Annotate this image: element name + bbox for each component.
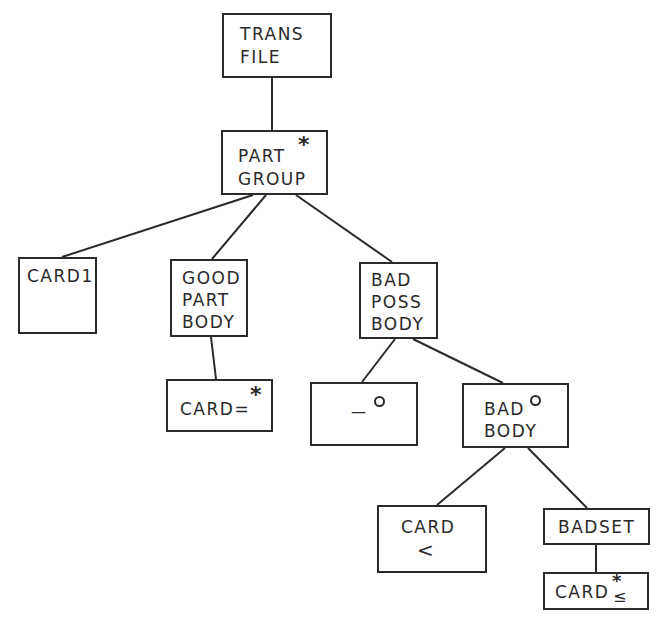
node-card-lt: CARD <: [377, 505, 487, 573]
node-label: BODY: [182, 311, 235, 333]
node-badset: BADSET: [543, 508, 650, 545]
edge-bad-body-card-lt: [437, 448, 505, 505]
edge-bad-body-badset: [528, 448, 587, 508]
node-card-le: CARD * ≤: [543, 572, 649, 610]
node-label: CARD1: [27, 265, 94, 287]
node-label: BADSET: [558, 516, 635, 538]
edge-part-group-good-part-body: [212, 195, 266, 259]
node-bad-body: BAD BODY: [462, 383, 569, 448]
node-label: GROUP: [238, 168, 307, 190]
edge-bad-poss-body-bad-body: [413, 339, 503, 383]
node-label: POSS: [371, 291, 422, 313]
node-card-eq: CARD= *: [166, 379, 273, 432]
node-null-option: —: [310, 382, 418, 446]
iteration-star-icon: *: [250, 384, 263, 406]
less-equal-symbol: ≤: [613, 586, 628, 608]
node-trans-file: TRANS FILE: [222, 13, 332, 78]
node-label: CARD=: [180, 398, 250, 420]
node-label: FILE: [240, 46, 281, 68]
node-label: BODY: [484, 420, 537, 442]
node-label: <: [417, 539, 435, 561]
edge-bad-poss-body-null: [362, 339, 395, 382]
node-label: GOOD: [182, 267, 241, 289]
node-label: CARD: [555, 581, 609, 603]
node-card1: CARD1: [18, 257, 97, 334]
null-dash: —: [351, 401, 368, 423]
edge-good-part-body-card-eq: [211, 337, 216, 379]
node-part-group: PART GROUP *: [221, 130, 328, 195]
selection-circle-icon: [530, 395, 541, 406]
node-label: PART: [238, 145, 286, 167]
edge-part-group-bad-poss-body: [296, 195, 392, 262]
node-bad-poss-body: BAD POSS BODY: [359, 262, 438, 339]
node-label: CARD: [401, 516, 455, 538]
node-label: BODY: [371, 313, 424, 335]
edge-part-group-card1: [62, 195, 253, 257]
node-good-part-body: GOOD PART BODY: [170, 259, 248, 337]
iteration-star-icon: *: [298, 134, 311, 156]
node-label: BAD: [371, 269, 412, 291]
node-label: BAD: [484, 398, 525, 420]
selection-circle-icon: [374, 396, 385, 407]
node-label: TRANS: [240, 23, 304, 45]
node-label: PART: [182, 289, 230, 311]
